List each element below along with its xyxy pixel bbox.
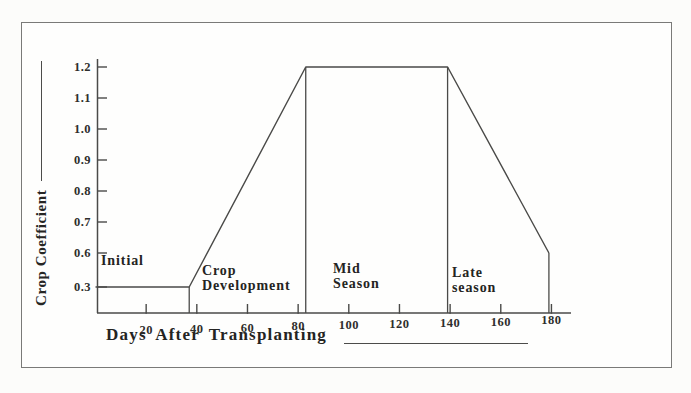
scanned-figure-page: 204060801001201401601801.21.11.00.90.80.… <box>0 0 691 393</box>
x-tick-label: 100 <box>339 318 359 332</box>
x-tick-label: 160 <box>491 315 511 329</box>
y-tick-label: 1.2 <box>74 60 91 74</box>
y-axis-title: Crop Coefficient <box>33 70 53 306</box>
y-tick-label: 1.0 <box>74 122 91 136</box>
stage-label-line: Crop <box>202 263 290 278</box>
y-tick-label: 0.6 <box>74 246 91 260</box>
y-tick-label: 0.9 <box>74 153 91 167</box>
y-axis-title-text: Crop Coefficient <box>33 190 49 306</box>
x-tick-label: 140 <box>440 316 460 330</box>
stage-label-line: Initial <box>101 253 144 268</box>
stage-label-crop-development: Crop Development <box>202 263 290 293</box>
stage-label-line: Late <box>452 265 496 280</box>
y-tick-label: 0.8 <box>74 184 91 198</box>
stage-label-line: Mid <box>333 261 380 276</box>
y-tick-label: 0.7 <box>74 215 91 229</box>
crop-coefficient-curve <box>96 67 549 287</box>
x-axis-title: Days After Transplanting <box>106 325 327 345</box>
x-tick-label: 180 <box>541 313 561 327</box>
stage-label-initial: Initial <box>101 253 144 268</box>
stage-label-line: Season <box>333 276 380 291</box>
y-tick-label: 1.1 <box>74 91 91 105</box>
x-axis-title-rule <box>344 343 528 344</box>
stage-label-line: season <box>452 280 496 295</box>
y-axis-title-rule <box>41 61 42 181</box>
stage-label-mid-season: Mid Season <box>333 261 380 291</box>
crop-coefficient-chart: 204060801001201401601801.21.11.00.90.80.… <box>0 0 691 393</box>
stage-label-line: Development <box>202 278 290 293</box>
stage-label-late-season: Late season <box>452 265 496 295</box>
x-tick-label: 120 <box>389 317 409 331</box>
y-tick-label: 0.3 <box>74 280 91 294</box>
